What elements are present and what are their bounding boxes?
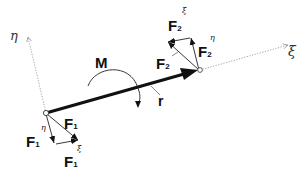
position-vector-arrowhead <box>180 68 198 80</box>
point-1 <box>43 110 48 115</box>
eta-axis-label: η <box>10 29 18 42</box>
mechanics-diagram: η ξ M r F1 F1 η F1 ξ F2 F2 ξ F2 η <box>0 0 308 177</box>
F1-eta-subscript: 1 <box>35 140 39 149</box>
F2-xi-label: F2 <box>168 18 182 33</box>
F1-xi-vector <box>56 140 78 144</box>
F2-eta-label: F2 <box>198 44 212 59</box>
F2-label: F2 <box>156 56 170 71</box>
F1-label: F1 <box>64 116 78 131</box>
F2-eta-subscript: 2 <box>207 50 211 59</box>
F1-eta-label: F1 <box>26 134 40 149</box>
F2-leader-line <box>172 52 178 56</box>
F1-eta-superscript: η <box>41 124 46 132</box>
eta-axis <box>28 37 46 113</box>
r-label: r <box>158 94 163 108</box>
F2-eta-superscript: η <box>210 34 215 42</box>
F2-xi-subscript: 2 <box>177 24 181 33</box>
F1-xi-subscript: 1 <box>73 160 77 169</box>
diagram-canvas <box>0 0 308 177</box>
F2-xi-vector <box>168 38 190 42</box>
F1-subscript: 1 <box>73 122 77 131</box>
xi-axis <box>200 45 288 70</box>
F2-xi-base: F <box>168 17 177 34</box>
F2-subscript: 2 <box>165 62 169 71</box>
F1-xi-base: F <box>64 153 73 170</box>
F1-base: F <box>64 115 73 132</box>
moment-arrowhead <box>135 101 141 108</box>
F2-eta-base: F <box>198 43 207 60</box>
F1-xi-superscript: ξ <box>77 145 81 153</box>
F2-base: F <box>156 55 165 72</box>
F1-xi-label: F1 <box>64 154 78 169</box>
point-2 <box>198 68 203 73</box>
F2-vector <box>168 42 199 70</box>
F2-xi-superscript: ξ <box>182 7 186 15</box>
xi-axis-label: ξ <box>288 44 296 58</box>
F1-eta-base: F <box>26 133 35 150</box>
moment-label: M <box>95 55 108 70</box>
